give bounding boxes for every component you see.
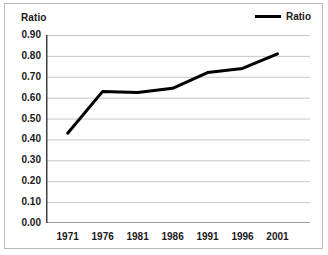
y-tick-label: 0.70 — [22, 72, 41, 82]
x-tick-label: 2001 — [266, 232, 288, 242]
x-tick-label: 1991 — [196, 232, 218, 242]
chart-legend: Ratio — [255, 11, 311, 22]
x-tick-label: 1996 — [231, 232, 253, 242]
y-tick-label: 0.30 — [22, 155, 41, 165]
plot-area — [46, 35, 310, 223]
y-axis-tick-labels: 0.000.100.200.300.400.500.600.700.800.90 — [5, 35, 41, 223]
y-axis-title: Ratio — [21, 12, 47, 23]
legend-label-ratio: Ratio — [286, 11, 311, 22]
y-tick-label: 0.00 — [22, 218, 41, 228]
data-line-ratio — [68, 54, 278, 133]
chart-container: Ratio Ratio 0.000.100.200.300.400.500.60… — [4, 3, 323, 249]
x-tick-label: 1976 — [92, 232, 114, 242]
y-tick-label: 0.40 — [22, 134, 41, 144]
gridlines — [46, 36, 310, 203]
y-tick-label: 0.80 — [22, 51, 41, 61]
y-tick-label: 0.90 — [22, 30, 41, 40]
x-tick-label: 1986 — [161, 232, 183, 242]
x-tick-label: 1971 — [57, 232, 79, 242]
y-tick-label: 0.60 — [22, 93, 41, 103]
y-tick-label: 0.10 — [22, 197, 41, 207]
legend-line-swatch-ratio — [255, 15, 281, 18]
y-tick-label: 0.20 — [22, 176, 41, 186]
y-tick-label: 0.50 — [22, 114, 41, 124]
line-chart-svg — [46, 35, 310, 223]
x-tick-label: 1981 — [126, 232, 148, 242]
x-axis-tick-labels: 1971197619811986199119962001 — [46, 232, 310, 246]
